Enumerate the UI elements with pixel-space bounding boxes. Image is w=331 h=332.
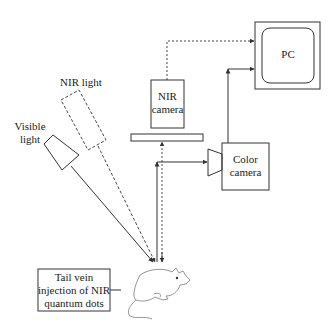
injection-label-line3: quantum dots [44, 297, 104, 309]
injection-note: Tail vein injection of NIR quantum dots [38, 269, 121, 311]
mouse-illustration [128, 268, 190, 319]
nir-light-beam [98, 146, 155, 262]
nir-light-source: NIR light [60, 76, 106, 150]
pc-monitor: PC [255, 22, 320, 89]
color-camera-label-line1: Color [233, 153, 258, 165]
nir-camera-label-line1: NIR [158, 90, 178, 102]
mouse-eye [176, 277, 178, 279]
nir-camera-to-pc-line [167, 41, 254, 80]
nir-camera: NIR camera [151, 80, 184, 128]
injection-label-line2: injection of NIR [38, 284, 111, 296]
visible-light-label-line2: light [20, 133, 40, 145]
pc-label: PC [281, 48, 294, 60]
color-camera-label-line2: camera [230, 166, 262, 178]
visible-light-beam [71, 166, 153, 262]
imaging-setup-diagram: PC NIR camera Color camera NIR light Vis… [0, 0, 331, 332]
visible-light-label-line1: Visible [14, 120, 45, 132]
visible-light-source: Visible light [14, 120, 79, 170]
color-camera: Color camera [208, 143, 269, 190]
filter-plate [131, 134, 203, 141]
injection-label-line1: Tail vein [55, 271, 94, 283]
nir-light-label: NIR light [60, 76, 102, 88]
nir-camera-label-line2: camera [152, 103, 184, 115]
